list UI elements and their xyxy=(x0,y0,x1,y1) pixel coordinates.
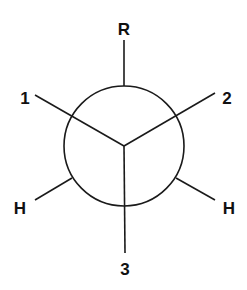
label-h-left: H xyxy=(14,199,26,218)
front-bond-1 xyxy=(35,95,124,146)
label-h-right: H xyxy=(223,199,235,218)
label-3: 3 xyxy=(120,260,129,279)
label-2: 2 xyxy=(222,89,231,108)
back-bond-h-left xyxy=(35,178,72,200)
label-r: R xyxy=(118,20,130,39)
label-1: 1 xyxy=(20,89,29,108)
newman-projection: R 1 2 H H 3 xyxy=(0,0,247,290)
front-bond-2 xyxy=(124,93,215,146)
back-bond-h-right xyxy=(176,178,215,200)
front-bond-3 xyxy=(124,146,125,253)
